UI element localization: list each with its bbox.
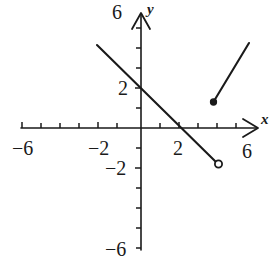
- x-axis-ticks: [22, 122, 236, 128]
- x-tick-label-pos2: 2: [173, 137, 183, 159]
- x-tick-label-neg6: −6: [12, 137, 33, 159]
- segment-1-line: [97, 45, 216, 162]
- y-axis-group: [132, 13, 150, 250]
- y-tick-label-neg6: −6: [105, 238, 126, 260]
- y-axis-label: y: [145, 1, 154, 17]
- segment-1-open-endpoint: [215, 160, 222, 167]
- y-tick-label-pos6: 6: [112, 1, 122, 23]
- segment-2-closed-endpoint: [210, 99, 216, 105]
- y-tick-label-neg2: −2: [105, 157, 126, 179]
- segment-1-group: [97, 45, 222, 168]
- y-axis-ticks: [135, 28, 141, 248]
- x-tick-label-pos6: 6: [242, 140, 252, 162]
- segment-2-line: [214, 43, 249, 101]
- piecewise-function-graph: −6 −2 2 6 6 2 −2 −6 x y: [0, 0, 274, 268]
- x-tick-label-neg2: −2: [88, 137, 109, 159]
- segment-2-group: [210, 43, 249, 105]
- y-tick-label-pos2: 2: [118, 77, 128, 99]
- x-axis-label: x: [260, 111, 269, 127]
- x-axis-group: [21, 119, 258, 137]
- coordinate-plane-svg: −6 −2 2 6 6 2 −2 −6 x y: [0, 0, 274, 268]
